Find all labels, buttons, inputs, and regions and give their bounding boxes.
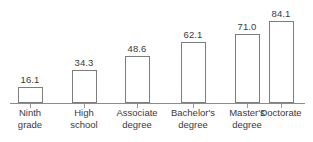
bar-group: 84.1 Doctorate — [253, 0, 309, 142]
category-label-line: Ninth — [5, 107, 55, 119]
bar-rect[interactable] — [72, 70, 97, 103]
category-label-line: Doctorate — [253, 107, 309, 119]
bar-rect[interactable] — [181, 42, 206, 103]
category-label-line: degree — [109, 119, 165, 131]
category-label: Ninth grade — [5, 107, 55, 130]
bar-value-label: 48.6 — [109, 44, 165, 54]
bar-group: 34.3 High school — [59, 0, 109, 142]
category-label-line: school — [59, 119, 109, 131]
category-label: High school — [59, 107, 109, 130]
category-label: Doctorate — [253, 107, 309, 119]
bar-value-label: 16.1 — [5, 75, 55, 85]
bar-group: 62.1 Bachelor's degree — [165, 0, 221, 142]
x-axis-baseline — [10, 103, 305, 104]
category-label-line: Associate — [109, 107, 165, 119]
bar-value-label: 34.3 — [59, 58, 109, 68]
category-label-line: High — [59, 107, 109, 119]
bar-group: 16.1 Ninth grade — [5, 0, 55, 142]
bar-rect[interactable] — [18, 87, 43, 103]
bars-layer: 16.1 Ninth grade 34.3 High school 48.6 A… — [0, 0, 313, 142]
bar-group: 48.6 Associate degree — [109, 0, 165, 142]
bar-rect[interactable] — [269, 21, 294, 103]
category-label: Associate degree — [109, 107, 165, 130]
bar-chart: 16.1 Ninth grade 34.3 High school 48.6 A… — [0, 0, 313, 142]
category-label: Bachelor's degree — [165, 107, 221, 130]
category-label-line: degree — [165, 119, 221, 131]
bar-value-label: 62.1 — [165, 30, 221, 40]
bar-value-label: 84.1 — [253, 9, 309, 19]
bar-rect[interactable] — [125, 56, 150, 103]
category-label-line: grade — [5, 119, 55, 131]
category-label-line: Bachelor's — [165, 107, 221, 119]
